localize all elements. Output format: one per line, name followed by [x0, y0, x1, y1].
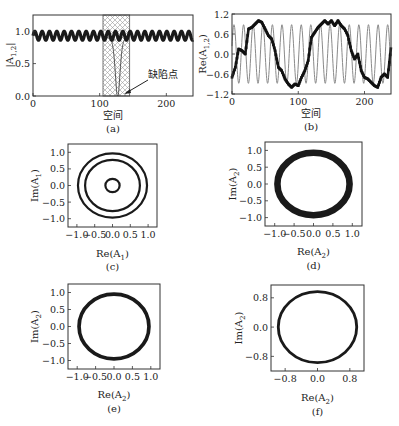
- y-tick-label: −0.8: [245, 351, 268, 362]
- panel-a: 01002000.00.51.0 |A1,2| 空间 (a) 缺陷点: [4, 15, 193, 134]
- panel-e-frame: [68, 284, 160, 369]
- x-tick-label: 200: [355, 96, 373, 107]
- panel-b-ticks: 0100200−1.2−0.60.00.61.2: [206, 9, 374, 108]
- x-tick-label: 0.0: [306, 228, 321, 239]
- y-tick-label: 0.5: [247, 162, 262, 173]
- ring-ring: [278, 292, 356, 363]
- panel-f-frame: [271, 285, 364, 371]
- ring-thick-ring: [277, 153, 349, 215]
- x-tick-label: 0: [229, 96, 235, 107]
- panel-f-xlabel: Re(A2): [301, 392, 334, 406]
- panel-f-ticks: −0.80.00.8−0.80.00.8: [245, 292, 357, 384]
- y-tick-label: 0.0: [50, 321, 65, 332]
- y-tick-label: −0.5: [42, 197, 65, 208]
- panel-b: 0100200−1.2−0.60.00.61.2 Re(A1,2) 空间 (b): [197, 9, 391, 133]
- x-tick-label: 0.0: [106, 371, 121, 382]
- y-tick-label: −1.2: [206, 89, 229, 100]
- x-tick-label: 0.0: [105, 229, 120, 240]
- y-tick-label: 0.0: [15, 91, 30, 102]
- panel-f-caption: (f): [312, 406, 324, 417]
- defect-point-label: 缺陷点: [148, 68, 178, 80]
- y-tick-label: −0.5: [239, 195, 262, 206]
- y-tick-label: 0.8: [253, 292, 268, 303]
- panel-e-ticks: −1.0−0.50.00.51.0−1.0−0.50.00.51.0: [42, 287, 158, 382]
- y-tick-label: 1.2: [214, 9, 229, 20]
- x-tick-label: 0.8: [342, 373, 357, 384]
- y-tick-label: 0.6: [214, 29, 229, 40]
- panel-d-caption: (d): [306, 260, 320, 271]
- panel-e: −1.0−0.50.00.51.0−1.0−0.50.00.51.0Im(A2)…: [29, 284, 160, 414]
- panel-b-fast-oscillation: [232, 25, 391, 84]
- y-tick-label: −0.5: [42, 338, 65, 349]
- y-tick-label: 1.0: [50, 147, 65, 158]
- y-tick-label: 0.0: [214, 49, 229, 60]
- ring-outer-ring: [78, 153, 147, 217]
- panel-a-xlabel: 空间: [103, 109, 123, 121]
- x-tick-label: 0.5: [325, 228, 340, 239]
- x-tick-label: 100: [289, 96, 307, 107]
- panel-a-caption: (a): [106, 123, 120, 134]
- panel-d-ticks: −1.0−0.50.00.51.0−1.0−0.50.00.51.0: [239, 145, 360, 239]
- panel-b-xlabel: 空间: [301, 107, 321, 119]
- panel-d-xlabel: Re(A2): [297, 246, 330, 260]
- panel-c-caption: (c): [106, 261, 120, 272]
- x-tick-label: 1.0: [345, 228, 360, 239]
- panel-c: −1.0−0.50.00.51.0−1.0−0.50.00.51.0Im(A1)…: [29, 144, 157, 272]
- y-tick-label: −0.6: [206, 69, 229, 80]
- x-tick-label: 200: [157, 98, 175, 109]
- panel-e-caption: (e): [107, 403, 121, 414]
- panel-e-xlabel: Re(A2): [98, 389, 131, 403]
- y-tick-label: 1.0: [247, 145, 262, 156]
- x-tick-label: −0.5: [84, 371, 107, 382]
- x-tick-label: 0.5: [125, 371, 140, 382]
- x-tick-label: −0.5: [83, 229, 106, 240]
- y-tick-label: 0.5: [50, 304, 65, 315]
- y-tick-label: 0.5: [15, 58, 30, 69]
- y-tick-label: −1.0: [42, 213, 65, 224]
- y-tick-label: 1.0: [15, 26, 30, 37]
- x-tick-label: 1.0: [143, 371, 158, 382]
- panel-e-ylabel: Im(A2): [29, 310, 43, 343]
- y-tick-label: −1.0: [42, 355, 65, 366]
- x-tick-label: −0.8: [274, 373, 297, 384]
- panel-f: −0.80.00.8−0.80.00.8Im(A2)Re(A2)(f): [233, 285, 364, 417]
- panel-f-ylabel: Im(A2): [233, 311, 247, 344]
- ring-middle-ring: [85, 160, 140, 211]
- x-tick-label: −0.5: [283, 228, 306, 239]
- x-tick-label: 1.0: [141, 229, 156, 240]
- panel-c-frame: [68, 144, 157, 227]
- ring-inner-ring: [105, 179, 119, 192]
- x-tick-label: 100: [91, 98, 109, 109]
- x-tick-label: 0: [30, 98, 36, 109]
- panel-a-oscillation-curve: [33, 31, 193, 40]
- panel-b-caption: (b): [304, 121, 318, 132]
- ring-ring: [79, 294, 149, 359]
- y-tick-label: 0.0: [253, 322, 268, 333]
- x-tick-label: 0.5: [123, 229, 138, 240]
- panel-d: −1.0−0.50.00.51.0−1.0−0.50.00.51.0Im(A2)…: [227, 142, 362, 271]
- panel-c-ylabel: Im(A1): [29, 169, 43, 202]
- y-tick-label: 1.0: [50, 287, 65, 298]
- y-tick-label: 0.0: [247, 179, 262, 190]
- y-tick-label: −1.0: [239, 212, 262, 223]
- y-tick-label: 0.0: [50, 180, 65, 191]
- figure-canvas: 01002000.00.51.0 |A1,2| 空间 (a) 缺陷点 01002…: [0, 0, 399, 426]
- panel-a-annotation: 缺陷点: [124, 68, 178, 94]
- panel-c-xlabel: Re(A1): [96, 248, 129, 262]
- y-tick-label: 0.5: [50, 163, 65, 174]
- x-tick-label: 0.0: [310, 373, 325, 384]
